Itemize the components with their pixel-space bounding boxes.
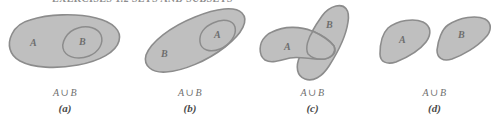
set-label-b: B	[160, 48, 168, 59]
caption-left-operand: A	[53, 87, 60, 98]
panel-index-label: (a)	[0, 101, 130, 116]
set-label-b: B	[457, 29, 465, 40]
set-label-a: A	[213, 29, 221, 40]
panel-d: A B A∪B (d)	[372, 0, 497, 128]
panel-c-diagram: A B	[250, 0, 375, 90]
panel-index-label: (c)	[250, 101, 375, 116]
caption-expression: A∪B	[0, 86, 130, 100]
union-operator: ∪	[60, 87, 71, 98]
panel-d-caption: A∪B (d)	[372, 86, 497, 116]
caption-right-operand: B	[440, 87, 447, 98]
set-label-b: B	[325, 19, 333, 30]
union-operator: ∪	[429, 87, 440, 98]
panel-b-diagram: B A	[125, 0, 255, 90]
caption-expression: A∪B	[125, 86, 255, 100]
caption-expression: A∪B	[250, 86, 375, 100]
panel-c-caption: A∪B (c)	[250, 86, 375, 116]
set-label-a: A	[29, 37, 37, 48]
panel-index-label: (b)	[125, 101, 255, 116]
caption-expression: A∪B	[372, 86, 497, 100]
panel-b-caption: A∪B (b)	[125, 86, 255, 116]
set-label-a: A	[398, 34, 406, 45]
caption-left-operand: A	[178, 87, 185, 98]
panel-index-label: (d)	[372, 101, 497, 116]
union-operator: ∪	[185, 87, 196, 98]
set-union-figure: EXERCISES 1.2 SETS AND SUBSETS A B A∪B (…	[0, 0, 497, 128]
set-label-a: A	[283, 41, 291, 52]
caption-right-operand: B	[195, 87, 202, 98]
panel-a-diagram: A B	[0, 0, 130, 90]
panel-a-caption: A∪B (a)	[0, 86, 130, 116]
panel-a: A B A∪B (a)	[0, 0, 130, 128]
caption-right-operand: B	[318, 87, 325, 98]
set-label-b: B	[78, 36, 86, 47]
panel-b: B A A∪B (b)	[125, 0, 255, 128]
caption-right-operand: B	[70, 87, 77, 98]
panel-d-diagram: A B	[372, 0, 497, 90]
panel-c: A B A∪B (c)	[250, 0, 375, 128]
union-operator: ∪	[307, 87, 318, 98]
